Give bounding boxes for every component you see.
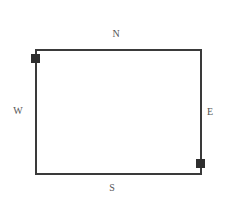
east-label: E: [207, 107, 213, 117]
south-label: S: [109, 183, 115, 193]
northwest-marker-square: [31, 54, 40, 63]
north-label: N: [112, 29, 119, 39]
west-label: W: [13, 106, 22, 116]
room-outline: [35, 49, 202, 175]
compass-room-diagram: N W E S: [0, 0, 230, 205]
southeast-marker-square: [196, 159, 205, 168]
